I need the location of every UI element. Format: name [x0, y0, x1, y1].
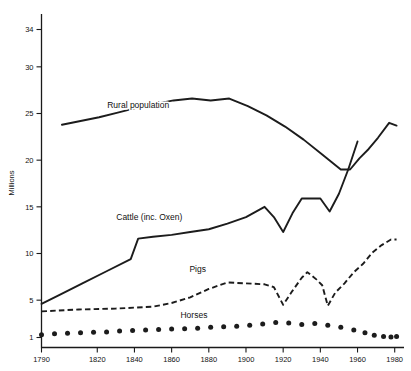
y-tick-label: 30 [25, 63, 33, 72]
x-tick-label: 1920 [275, 355, 292, 364]
x-axis-tick-labels: 1790182018401860188019001920194019601980 [33, 355, 403, 364]
series-point-horses [338, 325, 343, 330]
series-point-horses [394, 334, 399, 339]
series-point-horses [39, 332, 44, 337]
series-point-horses [182, 326, 187, 331]
series-point-horses [372, 333, 377, 338]
series-labels-group: Rural populationRural populationCattle (… [107, 100, 207, 320]
series-label-pigs: Pigs [189, 264, 206, 274]
series-point-horses [195, 326, 200, 331]
y-tick-label: 34 [25, 25, 33, 34]
line-chart: 15101520253034 1790182018401860188019001… [0, 0, 411, 371]
series-point-horses [286, 321, 291, 326]
axis-lines [42, 14, 405, 348]
series-label-rural-population: Rural population [107, 100, 169, 110]
y-axis-ticks [37, 30, 42, 338]
series-point-horses [65, 331, 70, 336]
series-point-horses [381, 334, 386, 339]
series-point-horses [299, 322, 304, 327]
y-tick-label: 1 [29, 333, 33, 342]
series-line-pigs [42, 240, 397, 312]
y-tick-label: 10 [25, 249, 33, 258]
x-tick-label: 1790 [33, 355, 50, 364]
x-tick-label: 1820 [89, 355, 106, 364]
y-tick-label: 15 [25, 203, 33, 212]
series-point-horses [117, 328, 122, 333]
series-label-horses: Horses [180, 310, 207, 320]
x-tick-label: 1940 [312, 355, 329, 364]
series-point-horses [312, 321, 317, 326]
series-point-horses [91, 330, 96, 335]
series-label-cattle-inc-oxen: Cattle (inc. Oxen) [116, 212, 182, 222]
series-point-horses [234, 324, 239, 329]
series-point-horses [143, 328, 148, 333]
y-tick-label: 5 [29, 296, 33, 305]
series-point-horses [52, 331, 57, 336]
y-axis-title-group: Millions [7, 170, 16, 195]
chart-container: 15101520253034 1790182018401860188019001… [0, 0, 411, 371]
y-axis-tick-labels: 15101520253034 [25, 25, 33, 342]
series-point-horses [208, 325, 213, 330]
series-point-horses [247, 323, 252, 328]
series-point-horses [362, 330, 367, 335]
x-tick-label: 1860 [163, 355, 180, 364]
axes-group [42, 14, 405, 348]
series-point-horses [104, 329, 109, 334]
x-tick-label: 1840 [126, 355, 143, 364]
series-point-horses [169, 327, 174, 332]
y-tick-label: 20 [25, 156, 33, 165]
x-tick-label: 1900 [238, 355, 255, 364]
y-tick-label: 25 [25, 109, 33, 118]
series-group [39, 99, 399, 340]
series-point-horses [221, 324, 226, 329]
x-tick-label: 1880 [200, 355, 217, 364]
series-point-horses [130, 328, 135, 333]
x-axis-ticks [42, 348, 395, 353]
series-point-horses [351, 328, 356, 333]
series-point-horses [156, 327, 161, 332]
x-tick-label: 1980 [386, 355, 403, 364]
series-point-horses [260, 321, 265, 326]
series-point-horses [388, 335, 393, 340]
series-point-horses [273, 320, 278, 325]
series-point-horses [78, 330, 83, 335]
y-axis-title: Millions [7, 170, 16, 195]
series-point-horses [325, 323, 330, 328]
x-tick-label: 1960 [349, 355, 366, 364]
series-line-cattle-inc-oxen [42, 142, 358, 304]
